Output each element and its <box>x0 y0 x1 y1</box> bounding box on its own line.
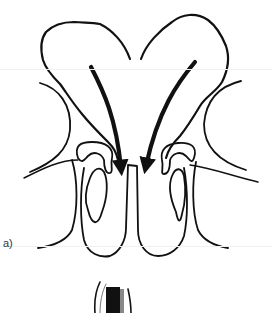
right-arrow <box>146 62 195 166</box>
lower-figure-inner-line <box>100 284 106 313</box>
lower-figure-right-line <box>128 289 131 313</box>
diagram-drawing <box>0 0 272 313</box>
left-orbit-curve <box>30 83 70 172</box>
left-lower-curve <box>24 160 78 178</box>
sinus-diagram: a) <box>0 0 272 313</box>
lower-figure-grey-band <box>120 289 124 313</box>
scan-artifact-line <box>0 69 272 70</box>
right-maxillary-wall <box>193 162 228 248</box>
left-ethmoid-lobe <box>77 142 113 173</box>
lower-figure-left-line <box>95 282 100 313</box>
left-maxillary-inner <box>86 169 107 223</box>
right-maxillary-inner <box>170 169 185 220</box>
panel-label-a: a) <box>3 237 13 249</box>
scan-artifact-line <box>0 246 272 247</box>
right-lower-curve <box>190 165 258 182</box>
lower-figure-dark-core <box>106 287 120 313</box>
left-maxillary-wall <box>38 160 77 248</box>
